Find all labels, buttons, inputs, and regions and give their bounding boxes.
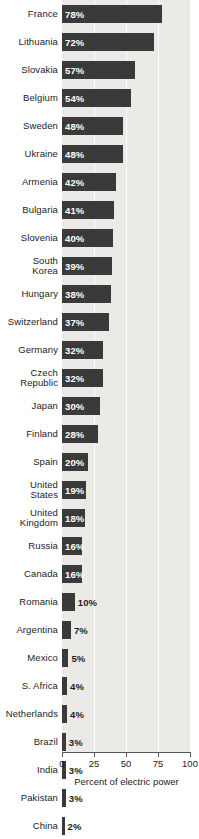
bar-value-label: 41% bbox=[62, 201, 84, 219]
category-label: UnitedStates bbox=[0, 476, 58, 504]
category-label: Slovenia bbox=[0, 224, 58, 252]
bar-row: Sweden48% bbox=[0, 112, 197, 140]
bar-row: Ukraine48% bbox=[0, 140, 197, 168]
bar bbox=[62, 593, 75, 611]
category-label: Lithuania bbox=[0, 28, 58, 56]
category-label: Argentina bbox=[0, 616, 58, 644]
bar-value-label: 16% bbox=[62, 565, 84, 583]
bar-row: Switzerland37% bbox=[0, 308, 197, 336]
bar bbox=[62, 621, 71, 639]
bar-row: Canada16% bbox=[0, 560, 197, 588]
bar-row: Russia16% bbox=[0, 532, 197, 560]
category-label: Bulgaria bbox=[0, 196, 58, 224]
bar-row: Germany32% bbox=[0, 336, 197, 364]
x-axis-tick-label: 50 bbox=[121, 758, 132, 769]
category-label: SouthKorea bbox=[0, 252, 58, 280]
bar-value-label: 3% bbox=[66, 789, 83, 807]
bar-value-label: 4% bbox=[67, 677, 84, 695]
category-label: Brazil bbox=[0, 728, 58, 756]
category-label: Slovakia bbox=[0, 56, 58, 84]
bar-row: Finland28% bbox=[0, 420, 197, 448]
bar-value-label: 39% bbox=[62, 257, 84, 275]
category-label: Sweden bbox=[0, 112, 58, 140]
bar-row: France78% bbox=[0, 0, 197, 28]
category-label: Finland bbox=[0, 420, 58, 448]
category-label: Germany bbox=[0, 336, 58, 364]
bar-value-label: 48% bbox=[62, 117, 84, 135]
category-label: Mexico bbox=[0, 644, 58, 672]
bar-row: S. Africa4% bbox=[0, 672, 197, 700]
bar-row: UnitedStates19% bbox=[0, 476, 197, 504]
category-label: Ukraine bbox=[0, 140, 58, 168]
x-axis-tick bbox=[190, 753, 191, 757]
bar-value-label: 2% bbox=[65, 817, 82, 835]
bar-row: Belgium54% bbox=[0, 84, 197, 112]
bar-row: Slovakia57% bbox=[0, 56, 197, 84]
x-axis-tick bbox=[62, 753, 63, 757]
bar-value-label: 78% bbox=[62, 5, 84, 23]
bar-row: Japan30% bbox=[0, 392, 197, 420]
bar-value-label: 40% bbox=[62, 229, 84, 247]
bar-value-label: 42% bbox=[62, 173, 84, 191]
x-axis-tick bbox=[126, 753, 127, 757]
bar-value-label: 3% bbox=[66, 733, 83, 751]
category-label: Russia bbox=[0, 532, 58, 560]
bar-value-label: 57% bbox=[62, 61, 84, 79]
category-label: Hungary bbox=[0, 280, 58, 308]
category-label: Netherlands bbox=[0, 700, 58, 728]
bar-row: CzechRepublic32% bbox=[0, 364, 197, 392]
bar-value-label: 16% bbox=[62, 537, 84, 555]
x-axis-tick-label: 100 bbox=[182, 758, 198, 769]
bar-row: Romania10% bbox=[0, 588, 197, 616]
x-axis-tick-label: 0 bbox=[59, 758, 64, 769]
category-label: Belgium bbox=[0, 84, 58, 112]
category-label: Romania bbox=[0, 588, 58, 616]
bar-rows: France78%Lithuania72%Slovakia57%Belgium5… bbox=[0, 0, 197, 752]
category-label: Armenia bbox=[0, 168, 58, 196]
bar-row: Lithuania72% bbox=[0, 28, 197, 56]
bar-row: Netherlands4% bbox=[0, 700, 197, 728]
category-label: Pakistan bbox=[0, 784, 58, 812]
bar-value-label: 20% bbox=[62, 453, 84, 471]
bar-value-label: 19% bbox=[62, 481, 84, 499]
bar-value-label: 54% bbox=[62, 89, 84, 107]
bar-value-label: 18% bbox=[62, 509, 84, 527]
bar-row: Spain20% bbox=[0, 448, 197, 476]
bar-value-label: 32% bbox=[62, 341, 84, 359]
bar-value-label: 37% bbox=[62, 313, 84, 331]
category-label: India bbox=[0, 756, 58, 784]
category-label: CzechRepublic bbox=[0, 364, 58, 392]
bar-row: Bulgaria41% bbox=[0, 196, 197, 224]
category-label: Spain bbox=[0, 448, 58, 476]
category-label: France bbox=[0, 0, 58, 28]
bar-value-label: 7% bbox=[71, 621, 88, 639]
category-label: UnitedKingdom bbox=[0, 504, 58, 532]
bar-row: Argentina7% bbox=[0, 616, 197, 644]
bar-value-label: 48% bbox=[62, 145, 84, 163]
x-axis-tick-label: 25 bbox=[89, 758, 100, 769]
category-label: Canada bbox=[0, 560, 58, 588]
bar-row: Hungary38% bbox=[0, 280, 197, 308]
x-axis-tick bbox=[94, 753, 95, 757]
bar-row: UnitedKingdom18% bbox=[0, 504, 197, 532]
x-axis-title: Percent of electric power bbox=[62, 776, 191, 787]
category-label: S. Africa bbox=[0, 672, 58, 700]
bar-value-label: 4% bbox=[67, 705, 84, 723]
bar-row: Pakistan3% bbox=[0, 784, 197, 812]
bar-row: Mexico5% bbox=[0, 644, 197, 672]
bar-row: Armenia42% bbox=[0, 168, 197, 196]
bar-row: SouthKorea39% bbox=[0, 252, 197, 280]
category-label: Japan bbox=[0, 392, 58, 420]
bar-value-label: 72% bbox=[62, 33, 84, 51]
bar-value-label: 5% bbox=[68, 649, 85, 667]
bar-value-label: 30% bbox=[62, 397, 84, 415]
category-label: China bbox=[0, 812, 58, 839]
bar-row: Slovenia40% bbox=[0, 224, 197, 252]
x-axis-tick-label: 75 bbox=[153, 758, 164, 769]
bar-value-label: 38% bbox=[62, 285, 84, 303]
bar-value-label: 32% bbox=[62, 369, 84, 387]
bar-value-label: 28% bbox=[62, 425, 84, 443]
bar-value-label: 10% bbox=[75, 593, 97, 611]
bar-row: China2% bbox=[0, 812, 197, 839]
